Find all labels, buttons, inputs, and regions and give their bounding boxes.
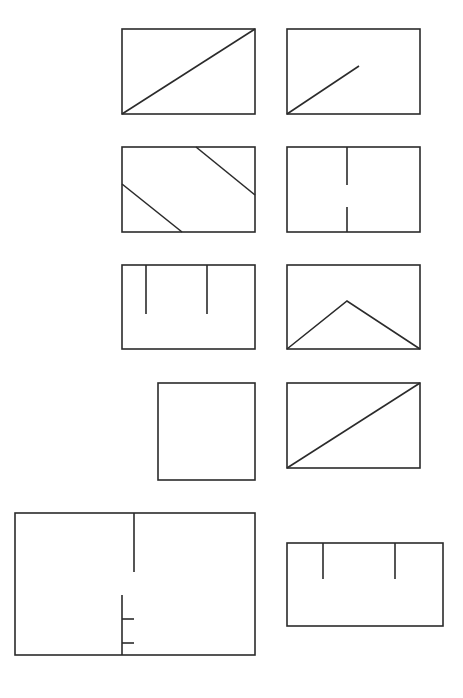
- panel-rect-chevron: [287, 265, 420, 349]
- panel-rect-full-diagonal-2: [287, 383, 420, 468]
- panel-border: [287, 147, 420, 232]
- panel-border: [122, 147, 255, 232]
- panel-rect-full-diagonal: [122, 29, 255, 114]
- diagram-canvas: [0, 0, 463, 698]
- panel-border: [122, 265, 255, 349]
- panel-rect-half-diagonal: [287, 29, 420, 114]
- panel-large-rect-offset-walls: [15, 513, 255, 655]
- panel-rect-two-top-stubs: [122, 265, 255, 349]
- panel-rect-vertical-with-gap: [287, 147, 420, 232]
- panel-rect-two-parallel-slants: [122, 147, 255, 232]
- panel-border: [287, 543, 443, 626]
- panel-square-empty: [158, 383, 255, 480]
- panel-border: [15, 513, 255, 655]
- panel-wide-rect-two-top-stubs: [287, 543, 443, 626]
- panel-border: [158, 383, 255, 480]
